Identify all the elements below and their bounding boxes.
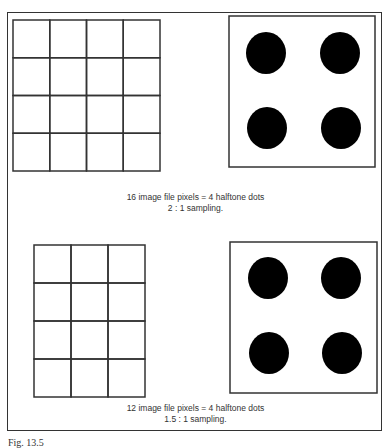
pixel-cell [71,321,108,359]
pixel-cell [108,245,145,283]
pixel-cell [13,20,50,58]
caption-top: 16 image file pixels = 4 halftone dots 2… [0,192,391,214]
pixel-cell [123,133,160,171]
figure-label: Fig. 13.5 [8,437,44,448]
pixel-cell [50,20,87,58]
halftone-dot [249,332,289,374]
caption-bottom-line2: 1.5 : 1 sampling. [0,414,391,425]
halftone-dot [320,32,360,74]
pixel-cell [87,58,124,96]
pixel-cell [50,96,87,134]
pixel-cell [71,359,108,397]
pixel-cell [50,133,87,171]
caption-bottom-line1: 12 image file pixels = 4 halftone dots [0,403,391,414]
pixel-cell [71,245,108,283]
halftone-dot [322,332,362,374]
pixel-cell [108,283,145,321]
pixel-cell [87,133,124,171]
pixel-cell [13,96,50,134]
caption-top-line1: 16 image file pixels = 4 halftone dots [0,192,391,203]
pixel-cell [34,283,71,321]
pixel-cell [108,359,145,397]
pixel-cell [50,58,87,96]
pixel-cell [87,20,124,58]
pixel-cell [108,321,145,359]
pixel-cell [34,359,71,397]
caption-bottom: 12 image file pixels = 4 halftone dots 1… [0,403,391,425]
halftone-dot [247,107,287,149]
halftone-dot [246,32,286,74]
pixel-cell [123,20,160,58]
pixel-cell [71,283,108,321]
pixel-cell [87,96,124,134]
pixel-cell [123,58,160,96]
pixel-cell [123,96,160,134]
pixel-cell [34,245,71,283]
pixel-cell [34,321,71,359]
halftone-dot [248,257,288,299]
pixel-cell [13,58,50,96]
caption-top-line2: 2 : 1 sampling. [0,203,391,214]
halftone-dot [321,107,361,149]
halftone-dot [321,257,361,299]
pixel-cell [13,133,50,171]
